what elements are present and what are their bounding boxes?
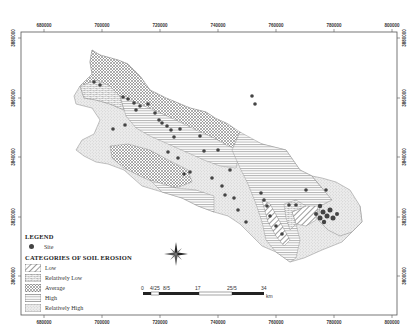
y-axis-right: 38800003860000384000038200003800000: [397, 29, 407, 285]
diagonal-hatch-swatch-icon: [25, 264, 41, 272]
x-axis-top: 6800007000007200007400007600007800008000…: [36, 23, 400, 32]
y-tick-label-right: 3840000: [402, 148, 407, 166]
y-tick-label-right: 3880000: [402, 29, 407, 47]
y-tick-label-left: 3840000: [11, 148, 16, 166]
x-tick-label-top: 800000: [384, 23, 400, 28]
x-tick-label-top: 680000: [36, 23, 52, 28]
x-tick-label-bottom: 780000: [326, 320, 342, 325]
legend-label-relatively-low: Relatively Low: [45, 275, 82, 281]
scale-bar: [143, 292, 264, 295]
x-tick-label-top: 740000: [210, 23, 226, 28]
site-dot-icon: [29, 244, 34, 249]
stipple-swatch-icon: [25, 304, 41, 312]
watershed-regions: [74, 50, 362, 262]
legend-item-site: Site: [25, 242, 53, 251]
x-tick-label-bottom: 720000: [152, 320, 168, 325]
brick-swatch-icon: [25, 274, 41, 282]
y-axis-left: 38800003860000384000038200003800000: [11, 29, 21, 285]
legend-label-low: Low: [45, 265, 56, 271]
y-tick-label-right: 3860000: [402, 89, 407, 107]
scale-unit: km: [266, 293, 273, 299]
legend-label-high: High: [45, 295, 57, 301]
scale-label-3: 17: [195, 285, 201, 291]
legend-title: LEGEND: [25, 233, 54, 240]
scale-label-2: 8/5: [163, 285, 170, 291]
y-tick-label-left: 3860000: [11, 89, 16, 107]
x-tick-label-bottom: 800000: [384, 320, 400, 325]
scale-label-5: 34: [261, 285, 267, 291]
y-tick-label-right: 3800000: [402, 267, 407, 285]
scale-label-1: 4/25: [150, 285, 160, 291]
legend-item-average: Average: [25, 283, 65, 292]
compass-rose-icon: [164, 242, 188, 266]
horizontal-lines-swatch-icon: [25, 294, 41, 302]
crosshatch-swatch-icon: [25, 284, 41, 292]
scale-label-4: 25/5: [227, 285, 237, 291]
legend-item-low: Low: [25, 263, 56, 272]
scale-label-0: 0: [141, 285, 144, 291]
legend-item-high: High: [25, 293, 57, 302]
y-tick-label-left: 3880000: [11, 29, 16, 47]
y-tick-label-left: 3800000: [11, 267, 16, 285]
x-tick-label-top: 780000: [326, 23, 342, 28]
legend-item-relatively-high: Relatively High: [25, 303, 83, 312]
x-tick-label-bottom: 740000: [210, 320, 226, 325]
x-tick-label-bottom: 680000: [36, 320, 52, 325]
x-axis-bottom: 6800007000007200007400007600007800008000…: [36, 315, 400, 325]
legend-label-average: Average: [45, 285, 65, 291]
x-tick-label-bottom: 700000: [94, 320, 110, 325]
y-tick-label-left: 3820000: [11, 208, 16, 226]
legend-item-relatively-low: Relatively Low: [25, 273, 82, 282]
x-tick-label-top: 720000: [152, 23, 168, 28]
legend-categories-title: CATEGORIES OF SOIL EROSION: [25, 254, 132, 261]
legend-label-relatively-high: Relatively High: [45, 305, 83, 311]
x-tick-label-top: 700000: [94, 23, 110, 28]
x-tick-label-top: 760000: [268, 23, 284, 28]
y-tick-label-right: 3820000: [402, 208, 407, 226]
x-tick-label-bottom: 760000: [268, 320, 284, 325]
legend-label-site: Site: [44, 244, 53, 250]
